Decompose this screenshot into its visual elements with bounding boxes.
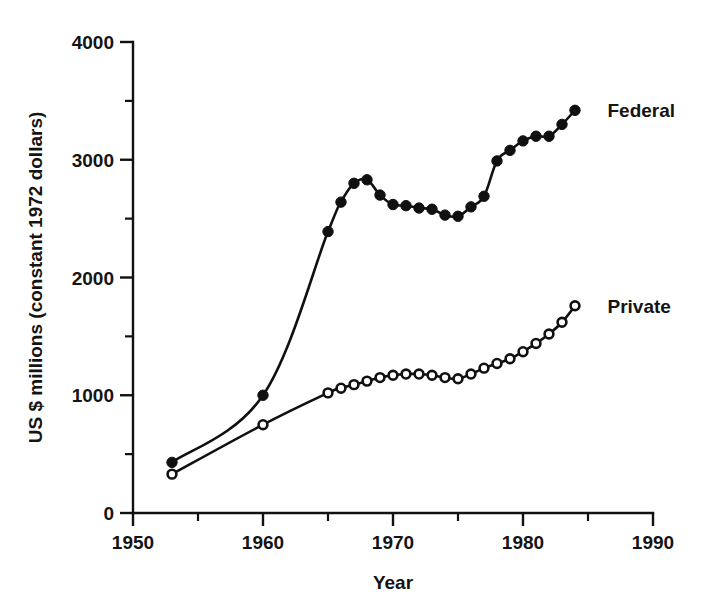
federal-data-point: [466, 202, 476, 212]
y-axis-tick-labels: 01000200030004000: [72, 32, 114, 524]
y-axis-ticks: [120, 42, 133, 513]
private-data-point: [324, 388, 333, 397]
federal-data-point: [427, 204, 437, 214]
private-data-point: [454, 374, 463, 383]
private-data-point: [480, 364, 489, 373]
y-tick-label: 4000: [72, 32, 114, 53]
federal-data-point: [544, 131, 554, 141]
private-data-point: [428, 371, 437, 380]
federal-data-point: [362, 175, 372, 185]
private-data-point: [467, 370, 476, 379]
axes: 01000200030004000 19501960197019801990: [72, 32, 674, 553]
y-tick-label: 3000: [72, 150, 114, 171]
federal-data-point: [570, 105, 580, 115]
private-data-point: [363, 377, 372, 386]
private-data-point: [376, 373, 385, 382]
y-axis-title: US $ millions (constant 1972 dollars): [25, 112, 46, 444]
private-data-point: [532, 339, 541, 348]
private-series-line: [172, 306, 575, 474]
federal-data-point: [258, 390, 268, 400]
federal-data-point: [505, 145, 515, 155]
federal-data-point: [557, 119, 567, 129]
private-data-point: [571, 301, 580, 310]
chart-figure: 01000200030004000 19501960197019801990 F…: [0, 0, 711, 612]
x-axis-tick-labels: 19501960197019801990: [112, 532, 674, 553]
federal-data-point: [167, 457, 177, 467]
private-data-point: [337, 384, 346, 393]
private-data-point: [558, 318, 567, 327]
federal-series-line: [172, 110, 575, 462]
data-series-group: [167, 105, 580, 478]
federal-data-point: [492, 156, 502, 166]
x-tick-label: 1950: [112, 532, 154, 553]
y-tick-label: 2000: [72, 268, 114, 289]
federal-data-point: [401, 200, 411, 210]
private-series-label: Private: [608, 296, 671, 317]
federal-data-point: [336, 197, 346, 207]
private-data-point: [519, 347, 528, 356]
x-tick-label: 1960: [242, 532, 284, 553]
federal-data-point: [479, 191, 489, 201]
private-data-point: [389, 371, 398, 380]
y-tick-label: 1000: [72, 385, 114, 406]
federal-data-point: [375, 190, 385, 200]
private-data-point: [168, 470, 177, 479]
federal-data-point: [323, 226, 333, 236]
federal-data-point: [440, 210, 450, 220]
federal-data-point: [349, 178, 359, 188]
line-chart-canvas: 01000200030004000 19501960197019801990 F…: [0, 0, 711, 612]
x-axis-ticks: [133, 513, 653, 526]
federal-data-point: [531, 131, 541, 141]
federal-data-point: [518, 136, 528, 146]
private-data-point: [441, 373, 450, 382]
private-data-point: [350, 380, 359, 389]
x-tick-label: 1990: [632, 532, 674, 553]
x-tick-label: 1980: [502, 532, 544, 553]
private-series-markers: [168, 301, 580, 478]
federal-series-markers: [167, 105, 580, 467]
private-data-point: [506, 354, 515, 363]
federal-data-point: [388, 199, 398, 209]
private-data-point: [415, 370, 424, 379]
federal-data-point: [414, 203, 424, 213]
private-data-point: [493, 359, 502, 368]
federal-series-label: Federal: [608, 100, 676, 121]
y-tick-label: 0: [103, 503, 114, 524]
private-data-point: [402, 370, 411, 379]
federal-data-point: [453, 211, 463, 221]
x-axis-title: Year: [373, 572, 414, 593]
private-data-point: [545, 330, 554, 339]
private-data-point: [259, 420, 268, 429]
x-tick-label: 1970: [372, 532, 414, 553]
